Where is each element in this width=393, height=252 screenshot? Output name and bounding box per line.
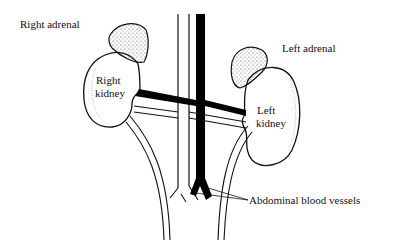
label-left-adrenal: Left adrenal bbox=[282, 42, 335, 54]
label-abdominal-vessels: Abdominal blood vessels bbox=[249, 194, 360, 206]
label-right-kidney-line2: kidney bbox=[95, 87, 125, 99]
vena-cava bbox=[190, 14, 212, 200]
label-left-kidney-line1: Left bbox=[257, 104, 275, 116]
left-renal-vein bbox=[205, 100, 246, 116]
label-left-kidney-line2: kidney bbox=[256, 117, 286, 129]
right-renal-vein bbox=[135, 89, 196, 106]
label-right-adrenal: Right adrenal bbox=[20, 18, 80, 30]
anatomy-diagram: Right adrenal Left adrenal Right kidney … bbox=[0, 0, 393, 252]
label-right-kidney-line1: Right bbox=[96, 74, 120, 86]
aorta bbox=[170, 14, 198, 202]
diagram-drawing bbox=[0, 0, 393, 252]
